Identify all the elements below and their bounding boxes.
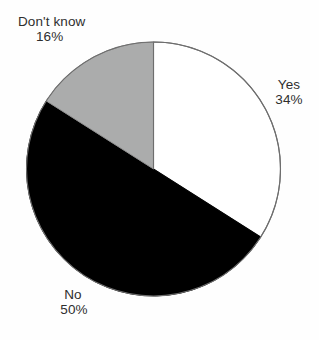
pie-chart-figure: Don't know 16% Yes 34% No 50% <box>0 0 319 340</box>
pie-chart-svg <box>0 0 319 340</box>
pie-label-no: No 50% <box>52 288 96 317</box>
pie-label-dontknow-value: 16% <box>18 30 85 45</box>
pie-label-dontknow-name: Don't know <box>18 15 85 30</box>
pie-label-yes: Yes 34% <box>263 78 315 107</box>
pie-label-dontknow: Don't know 16% <box>18 15 85 44</box>
pie-label-no-name: No <box>52 288 96 303</box>
pie-label-yes-value: 34% <box>263 93 315 108</box>
pie-label-yes-name: Yes <box>263 78 315 93</box>
pie-label-no-value: 50% <box>52 303 96 318</box>
